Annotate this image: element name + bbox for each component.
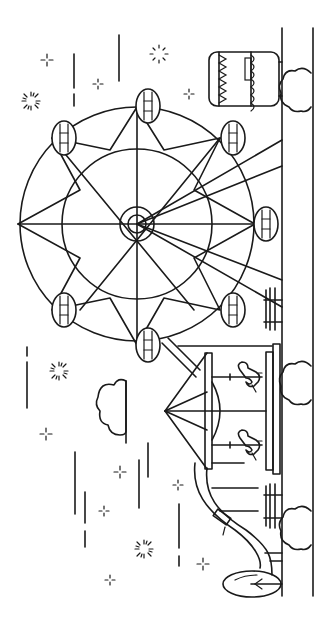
tree — [223, 571, 282, 597]
sky-cloud — [96, 380, 126, 443]
ticket-booth — [209, 52, 282, 111]
ferris-wheel — [18, 89, 282, 362]
gondolas — [52, 89, 278, 362]
bench-upper — [264, 288, 282, 330]
amusement-park-illustration — [0, 0, 333, 624]
carousel — [162, 338, 280, 474]
slide — [195, 463, 282, 575]
ground-clouds — [279, 68, 311, 549]
